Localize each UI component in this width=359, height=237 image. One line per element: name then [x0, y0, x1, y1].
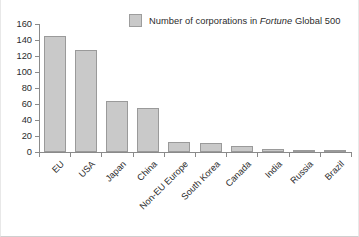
bar[interactable]: [293, 150, 315, 152]
y-axis-tick: 120: [8, 51, 39, 61]
x-axis-tick-mark: [70, 153, 71, 157]
plot-area: 020406080100120140160: [39, 24, 351, 152]
bar[interactable]: [106, 101, 128, 152]
bar-slot: [320, 24, 351, 152]
y-axis-tick-label: 0: [8, 147, 32, 157]
y-axis-tick-label: 140: [8, 35, 32, 45]
bar[interactable]: [262, 149, 284, 152]
y-axis-tick: 160: [8, 19, 39, 29]
y-axis-tick-label: 100: [8, 67, 32, 77]
y-axis-tick-label: 60: [8, 99, 32, 109]
x-axis-tick-mark: [164, 153, 165, 157]
x-axis-tick-label-text: Japan: [103, 159, 128, 184]
bar[interactable]: [75, 50, 97, 152]
y-axis-tick: 80: [8, 83, 39, 93]
bar-slot: [226, 24, 257, 152]
y-axis-tick: 40: [8, 115, 39, 125]
x-axis-tick-mark: [101, 153, 102, 157]
x-axis-tick-label-text: USA: [77, 159, 97, 179]
x-axis-tick-label-text: India: [263, 159, 284, 180]
bar-slot: [164, 24, 195, 152]
x-axis-tick-mark: [289, 153, 290, 157]
x-axis-tick-mark: [320, 153, 321, 157]
y-axis-tick: 100: [8, 67, 39, 77]
x-axis-labels: EUUSAJapanChinaNon-EU EuropeSouth KoreaC…: [39, 159, 351, 235]
y-axis-tick-label: 40: [8, 115, 32, 125]
y-axis-tick-label: 80: [8, 83, 32, 93]
y-axis-tick-label: 120: [8, 51, 32, 61]
bar[interactable]: [137, 108, 159, 152]
x-axis-tick-label-text: Brazil: [323, 159, 346, 182]
bar[interactable]: [231, 146, 253, 152]
y-axis-tick: 20: [8, 131, 39, 141]
x-axis-tick-label-text: EU: [50, 159, 66, 175]
bar-series: [39, 24, 351, 152]
x-axis-tick-mark: [226, 153, 227, 157]
x-axis-tick-label-text: China: [135, 159, 159, 183]
x-axis-tick-mark: [133, 153, 134, 157]
bar[interactable]: [200, 143, 222, 152]
bar-slot: [257, 24, 288, 152]
bar-slot: [39, 24, 70, 152]
bar[interactable]: [168, 142, 190, 152]
bar-slot: [70, 24, 101, 152]
y-axis-tick-label: 160: [8, 19, 32, 29]
y-axis-tick-label: 20: [8, 131, 32, 141]
bar-slot: [101, 24, 132, 152]
y-axis-tick: 140: [8, 35, 39, 45]
y-axis-tick: 60: [8, 99, 39, 109]
x-axis-tick-mark: [195, 153, 196, 157]
y-axis-tick: 0: [8, 147, 39, 157]
x-axis-tick-mark: [257, 153, 258, 157]
bar-slot: [289, 24, 320, 152]
bar-slot: [133, 24, 164, 152]
x-axis-tick-label-text: Russia: [289, 159, 316, 186]
x-axis-tick-mark: [351, 153, 352, 157]
x-axis-tick-label-text: Canada: [223, 159, 253, 189]
bar[interactable]: [324, 150, 346, 152]
bar[interactable]: [44, 36, 66, 152]
x-axis-tick-mark: [39, 153, 40, 157]
bar-chart-figure: Number of corporations in Fortune Global…: [0, 0, 359, 237]
bar-slot: [195, 24, 226, 152]
